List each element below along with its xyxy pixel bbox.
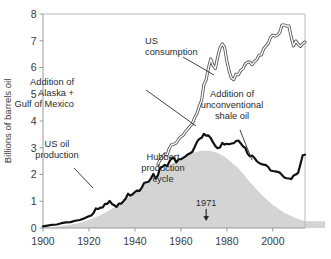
annotation-line: production bbox=[35, 150, 78, 160]
x-tick-label: 1940 bbox=[123, 235, 147, 247]
annotation-line: Addition of bbox=[210, 89, 254, 99]
annotation-line: Hubbert bbox=[146, 152, 179, 162]
x-tick-label: 1980 bbox=[215, 235, 239, 247]
y-tick-label: 7 bbox=[31, 35, 37, 47]
annotation-line: production bbox=[141, 163, 184, 173]
chart-figure: 012345678190019201940196019802000Billion… bbox=[0, 0, 331, 259]
annotation-line: US bbox=[145, 36, 158, 46]
leader-alaska-gulf bbox=[146, 90, 196, 126]
x-tick-label: 1920 bbox=[77, 235, 101, 247]
y-tick-label: 1 bbox=[31, 195, 37, 207]
y-tick-label: 4 bbox=[31, 115, 37, 127]
annotation-line: US oil bbox=[45, 139, 70, 149]
series-hubbert-area bbox=[43, 150, 325, 228]
x-tick-label: 2000 bbox=[261, 235, 285, 247]
annotation-line: Addition of bbox=[30, 77, 74, 87]
annotation-line: Gulf of Mexico bbox=[15, 99, 74, 109]
y-tick-label: 8 bbox=[31, 8, 37, 20]
annotation-us-consumption: USconsumption bbox=[145, 36, 198, 57]
leader-us-oil-production bbox=[74, 168, 93, 188]
y-tick-label: 6 bbox=[31, 61, 37, 73]
annotation-line: Alaska + bbox=[38, 88, 74, 98]
annotation-line: unconventional bbox=[201, 100, 264, 110]
y-tick-label: 2 bbox=[31, 168, 37, 180]
y-tick-label: 5 bbox=[31, 88, 37, 100]
x-tick-label: 1900 bbox=[31, 235, 55, 247]
annotation-us-oil-production: US oilproduction bbox=[35, 139, 78, 160]
annotation-line: consumption bbox=[145, 47, 198, 57]
marker-1971-label: 1971 bbox=[196, 198, 217, 208]
x-tick-label: 1960 bbox=[169, 235, 193, 247]
annotation-line: cycle bbox=[152, 174, 173, 184]
annotation-alaska-gulf: Addition ofAlaska +Gulf of Mexico bbox=[15, 77, 75, 109]
y-axis-title: Billions of barrels oil bbox=[2, 79, 13, 163]
chart-canvas: 012345678190019201940196019802000Billion… bbox=[0, 0, 331, 259]
y-tick-label: 0 bbox=[31, 222, 37, 234]
annotation-unconventional-shale: Addition ofunconventionalshale oil bbox=[201, 89, 264, 121]
annotation-line: shale oil bbox=[215, 111, 249, 121]
